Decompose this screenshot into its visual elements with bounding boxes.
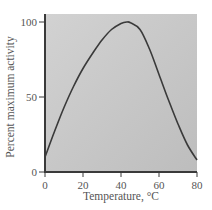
x-axis-label: Temperature, °C — [83, 190, 159, 203]
x-ticks: 020406080 — [42, 172, 203, 191]
y-tick-label: 0 — [32, 166, 38, 178]
y-ticks: 050100 — [21, 16, 46, 178]
y-axis-label: Percent maximum activity — [4, 36, 17, 158]
enzyme-activity-chart: 050100 020406080 Temperature, °C Percent… — [0, 0, 212, 210]
y-tick-label: 50 — [26, 91, 38, 103]
x-tick-label: 80 — [192, 179, 204, 191]
x-tick-label: 0 — [42, 179, 48, 191]
plot-area — [45, 14, 197, 172]
y-tick-label: 100 — [21, 16, 38, 28]
